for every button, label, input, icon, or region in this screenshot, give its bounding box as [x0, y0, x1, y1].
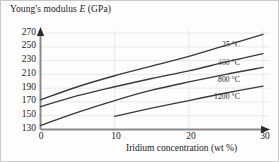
gridlines: [41, 30, 271, 130]
curve-400-c: [41, 54, 264, 107]
x-axis-arrow: [261, 126, 270, 133]
series-curves: [41, 34, 264, 125]
plot-area: [0, 0, 279, 162]
y-axis-arrow: [37, 27, 44, 36]
chart-figure: Young's modulus E (GPa) 270 250 230 210 …: [0, 0, 279, 162]
